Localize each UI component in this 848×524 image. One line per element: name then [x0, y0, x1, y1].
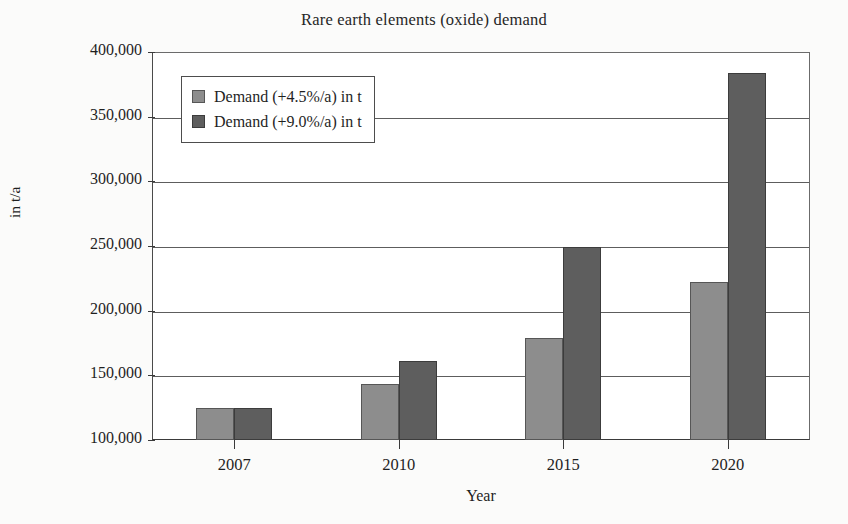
y-tick-mark	[148, 181, 155, 182]
y-tick-label: 350,000	[26, 106, 142, 124]
y-tick-label: 300,000	[26, 170, 142, 188]
x-tick-mark	[234, 440, 235, 449]
legend-swatch-icon	[192, 90, 205, 103]
x-tick-mark	[399, 440, 400, 449]
y-axis-title: in t/a	[6, 187, 24, 218]
y-tick-label: 250,000	[26, 235, 142, 253]
y-tick-mark	[148, 375, 155, 376]
x-tick-label: 2020	[683, 455, 773, 475]
x-tick-label: 2015	[518, 455, 608, 475]
chart-container: Rare earth elements (oxide) demand in t/…	[0, 0, 848, 524]
y-tick-label: 200,000	[26, 300, 142, 318]
y-tick-label: 100,000	[26, 429, 142, 447]
x-tick-label: 2010	[354, 455, 444, 475]
y-tick-label: 400,000	[26, 41, 142, 59]
legend-item: Demand (+4.5%/a) in t	[192, 84, 362, 109]
gridline	[153, 247, 809, 248]
y-tick-mark	[148, 311, 155, 312]
legend-item-label: Demand (+4.5%/a) in t	[214, 88, 362, 106]
chart-legend: Demand (+4.5%/a) in t Demand (+9.0%/a) i…	[181, 76, 375, 143]
chart-title: Rare earth elements (oxide) demand	[0, 10, 848, 30]
bar	[399, 361, 437, 440]
bar	[525, 338, 563, 440]
y-tick-mark	[148, 117, 155, 118]
x-tick-label: 2007	[189, 455, 279, 475]
x-tick-mark	[728, 440, 729, 449]
bar	[196, 408, 234, 440]
y-tick-mark	[148, 52, 155, 53]
y-tick-mark	[148, 440, 155, 441]
legend-item-label: Demand (+9.0%/a) in t	[214, 113, 362, 131]
y-tick-label: 150,000	[26, 364, 142, 382]
gridline	[153, 182, 809, 183]
legend-item: Demand (+9.0%/a) in t	[192, 109, 362, 134]
y-tick-mark	[148, 246, 155, 247]
bar	[563, 247, 601, 440]
bar	[234, 408, 272, 440]
legend-swatch-icon	[192, 115, 205, 128]
bar	[690, 282, 728, 440]
bar	[361, 384, 399, 440]
x-tick-mark	[563, 440, 564, 449]
x-axis-title: Year	[152, 487, 810, 505]
bar	[728, 73, 766, 440]
